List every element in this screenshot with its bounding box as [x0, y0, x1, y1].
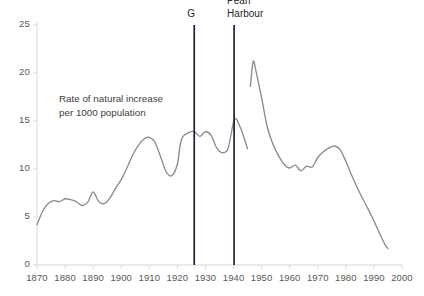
y-tick-label: 5	[8, 210, 30, 221]
y-tick-label: 15	[8, 114, 30, 125]
y-axis-tick-marks	[33, 25, 37, 265]
event-marker-lines	[194, 25, 234, 265]
y-tick-label: 25	[8, 18, 30, 29]
line-chart-canvas	[0, 0, 424, 296]
chart-annotation-note: Rate of natural increase per 1000 popula…	[59, 92, 163, 119]
chart-container: 0510152025 18701880189019001910192019301…	[0, 0, 424, 296]
x-tick-label: 2000	[385, 272, 419, 283]
y-tick-label: 0	[8, 258, 30, 269]
note-line-1: Rate of natural increase	[59, 93, 163, 104]
series-line-segment	[37, 119, 248, 225]
y-tick-label: 20	[8, 66, 30, 77]
data-series-group	[37, 61, 388, 249]
pearl-harbour-marker-label: Pearl Harbour	[227, 0, 263, 20]
great-depression-marker-label: G	[187, 7, 195, 20]
y-tick-label: 10	[8, 162, 30, 173]
x-axis-tick-marks	[37, 265, 402, 269]
note-line-2: per 1000 population	[59, 107, 146, 118]
series-line-segment	[250, 61, 388, 249]
